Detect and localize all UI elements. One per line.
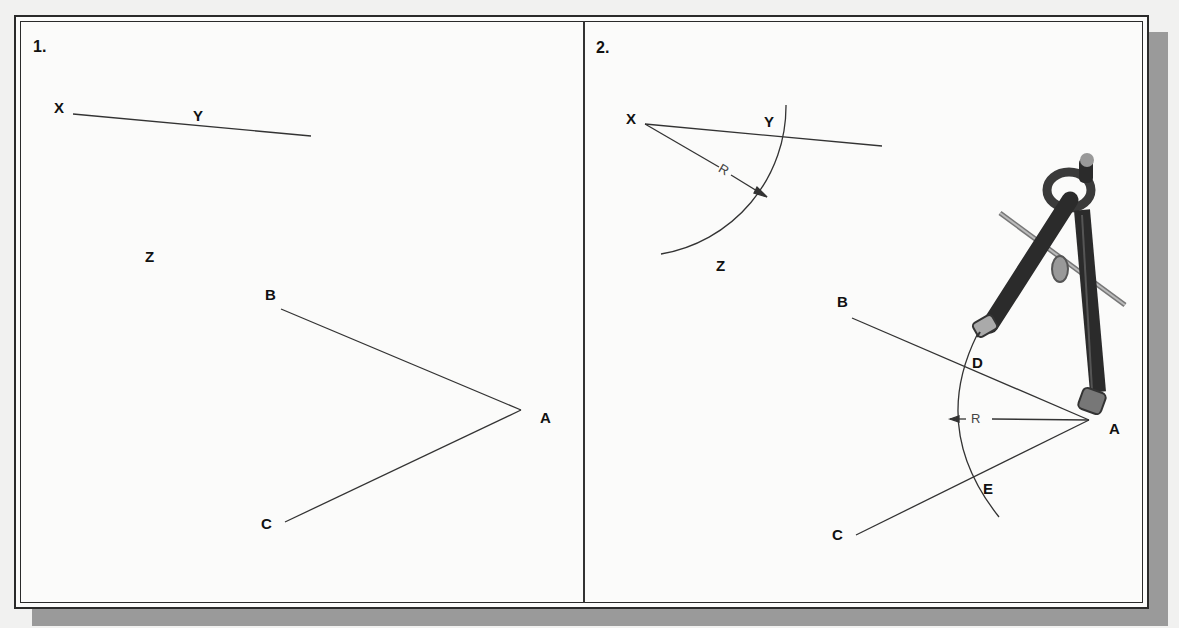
line-xy-1 xyxy=(73,114,311,136)
point-label-c: C xyxy=(261,516,272,531)
point-label-a: A xyxy=(1109,421,1120,436)
point-label-b: B xyxy=(265,287,276,302)
radius-leader-a-b xyxy=(992,419,1089,420)
point-label-x: X xyxy=(626,111,636,126)
panel-1-lines xyxy=(73,114,521,522)
point-label-c: C xyxy=(832,527,843,542)
compass-icon xyxy=(971,153,1125,415)
construction-drawing xyxy=(0,0,1179,628)
point-label-y: Y xyxy=(193,108,203,123)
point-label-a: A xyxy=(540,410,551,425)
panel-2-number: 2. xyxy=(596,40,609,56)
point-label-d: D xyxy=(972,355,983,370)
panel-1-number: 1. xyxy=(33,39,46,55)
point-label-z: Z xyxy=(716,258,725,273)
point-label-x: X xyxy=(54,100,64,115)
panel-2-lines xyxy=(645,105,1089,535)
point-label-z: Z xyxy=(145,249,154,264)
line-ab-1 xyxy=(281,309,521,410)
arrowhead-icon xyxy=(950,416,959,422)
line-ac-2 xyxy=(856,420,1089,535)
point-label-y: Y xyxy=(764,114,774,129)
line-ab-2 xyxy=(852,318,1089,420)
point-label-b: B xyxy=(837,294,848,309)
line-ac-1 xyxy=(285,410,521,522)
point-label-e: E xyxy=(983,481,993,496)
radius-label: R xyxy=(971,412,980,425)
